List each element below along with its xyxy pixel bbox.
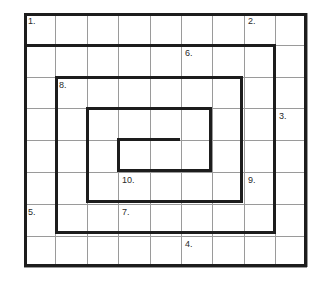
- spiral-arm-2-left: [86, 107, 89, 203]
- grid-line-horizontal: [24, 172, 307, 173]
- spiral-arm-3-right: [209, 107, 212, 172]
- clue-number[interactable]: 9.: [248, 176, 256, 185]
- clue-number[interactable]: 7.: [122, 208, 130, 217]
- spiral-arm-4-top: [117, 138, 180, 141]
- grid-line-vertical: [307, 13, 308, 267]
- outer-border-right: [304, 13, 307, 267]
- spiral-arm-3-left: [117, 138, 120, 172]
- spiral-arm-3-bottom: [117, 169, 212, 172]
- outer-border-left: [24, 13, 27, 267]
- clue-number[interactable]: 4.: [185, 240, 193, 249]
- grid-line-horizontal: [24, 236, 307, 237]
- clue-number[interactable]: 2.: [248, 17, 256, 26]
- grid-line-horizontal: [24, 267, 307, 268]
- spiral-arm-2-right: [240, 76, 243, 203]
- outer-border-bottom: [24, 264, 307, 267]
- spiral-arm-2-top: [55, 76, 243, 79]
- clue-number[interactable]: 8.: [59, 81, 67, 90]
- spiral-arm-2-bottom: [86, 200, 243, 203]
- clue-number[interactable]: 3.: [279, 112, 287, 121]
- outer-border-top: [24, 13, 307, 16]
- clue-number[interactable]: 6.: [185, 49, 193, 58]
- grid-line-horizontal: [24, 204, 307, 205]
- spiral-arm-1-bottom: [55, 231, 276, 234]
- spiral-crossword-puzzle: 1.2.6.8.3.10.9.5.7.4.: [0, 0, 330, 285]
- puzzle-grid: 1.2.6.8.3.10.9.5.7.4.: [24, 13, 307, 267]
- clue-number[interactable]: 5.: [28, 208, 36, 217]
- spiral-arm-3-top: [86, 107, 212, 110]
- clue-number[interactable]: 1.: [28, 17, 36, 26]
- spiral-arm-1-top: [24, 44, 276, 47]
- spiral-arm-1-left: [55, 76, 58, 234]
- clue-number[interactable]: 10.: [122, 176, 135, 185]
- spiral-arm-1-right: [273, 44, 276, 234]
